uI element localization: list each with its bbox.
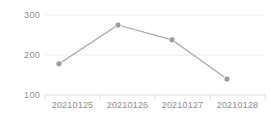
data-point-marker-2 [169, 37, 175, 43]
x-axis-tick-label-20210125: 20210125 [45, 100, 100, 111]
data-point-marker-0 [56, 61, 62, 67]
data-point-marker-1 [115, 22, 121, 28]
line-chart: 300 200 100 20210125 20210126 20210127 2… [0, 0, 271, 117]
data-point-marker-3 [224, 76, 230, 82]
x-axis-tick-label-20210128: 20210128 [210, 100, 265, 111]
x-axis-tick-label-20210127: 20210127 [155, 100, 210, 111]
series-line [59, 25, 227, 79]
x-axis-tick-label-20210126: 20210126 [100, 100, 155, 111]
